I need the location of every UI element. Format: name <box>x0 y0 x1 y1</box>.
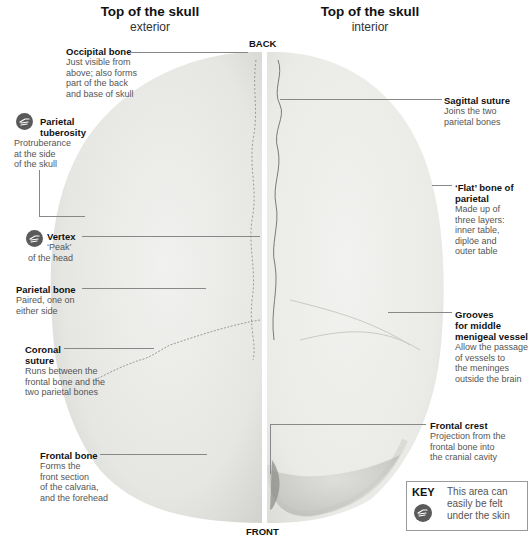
direction-front: FRONT <box>246 526 279 537</box>
skull-interior-half <box>267 52 444 523</box>
leader-occipital-bone <box>130 52 248 53</box>
label-body-line: Allow the passage <box>455 342 530 353</box>
label-title: Parietal <box>14 116 104 127</box>
label-body-line: Made up of <box>455 204 530 215</box>
leader-frontal-crest-vertical <box>270 424 271 474</box>
label-body-line: three layers: <box>455 215 530 226</box>
label-frontal-crest: Frontal crest Projection from the fronta… <box>430 420 530 463</box>
label-body-line: either side <box>16 306 106 317</box>
label-title: Parietal bone <box>16 284 106 295</box>
label-title: parietal <box>455 193 530 204</box>
right-panel-subtitle: interior <box>290 20 450 34</box>
label-body-line: Just visible from <box>66 57 176 68</box>
label-title: Frontal crest <box>430 420 530 431</box>
leader-parietal-bone <box>82 288 206 289</box>
label-body-line: above; also forms <box>66 68 176 79</box>
key-text-line: This area can <box>447 486 529 498</box>
label-title: Coronal <box>25 344 125 355</box>
label-coronal-suture: Coronal suture Runs between the frontal … <box>25 344 125 398</box>
left-panel-subtitle: exterior <box>70 20 230 34</box>
label-title: ‘Flat’ bone of <box>455 182 530 193</box>
label-title: suture <box>25 355 125 366</box>
label-body-line: outside the brain <box>455 374 530 385</box>
label-frontal-bone: Frontal bone Forms the front section of … <box>40 450 140 503</box>
leader-grooves-middle-meningeal <box>388 312 452 313</box>
label-body-line: Projection from the <box>430 431 530 442</box>
key-heading: KEY <box>412 487 435 498</box>
label-body-line: parietal bones <box>444 117 530 128</box>
label-body-line: part of the back <box>66 78 176 89</box>
leader-flat-bone-of-parietal <box>432 185 452 186</box>
label-title: for middle <box>455 320 530 331</box>
label-title: Grooves <box>455 309 530 320</box>
leader-frontal-crest-horizontal <box>270 424 426 425</box>
key-text-line: easily be felt <box>447 498 529 510</box>
label-body-line: inner table, <box>455 225 530 236</box>
leader-coronal-suture <box>64 348 154 349</box>
label-title: Sagittal suture <box>444 95 530 106</box>
label-body-line: and base of skull <box>66 89 176 100</box>
label-title: menigeal vessel <box>455 331 530 342</box>
label-occipital-bone: Occipital bone Just visible from above; … <box>66 46 176 99</box>
leader-frontal-bone <box>100 454 207 455</box>
right-panel-title: Top of the skull <box>290 4 450 19</box>
label-body-line: of the calvaria, <box>40 482 140 493</box>
label-body-line: ‘Peak’ <box>28 242 108 253</box>
key-description: This area can easily be felt under the s… <box>447 486 529 522</box>
label-body-line: the cranial cavity <box>430 452 530 463</box>
label-body-line: Protruberance <box>14 138 104 149</box>
label-body-line: at the side <box>14 149 104 160</box>
label-body-line: of the skull <box>14 159 104 170</box>
label-body-line: Paired, one on <box>16 295 106 306</box>
label-body-line: front section <box>40 472 140 483</box>
label-body-line: frontal bone into <box>430 442 530 453</box>
label-flat-bone-of-parietal: ‘Flat’ bone of parietal Made up of three… <box>455 182 530 257</box>
label-body-line: Runs between the <box>25 366 125 377</box>
leader-parietal-tuberosity-vertical <box>39 170 40 216</box>
label-body-line: and the forehead <box>40 493 140 504</box>
label-title: tuberosity <box>14 127 104 138</box>
label-body-line: the meninges <box>455 363 530 374</box>
leader-vertex <box>82 236 260 237</box>
palpable-hand-icon <box>414 504 432 522</box>
leader-sagittal-suture <box>280 99 442 100</box>
key-text-line: under the skin <box>447 510 529 522</box>
label-grooves-middle-meningeal: Grooves for middle menigeal vessel Allow… <box>455 309 530 384</box>
label-body-line: frontal bone and the <box>25 377 125 388</box>
label-parietal-tuberosity: Parietal tuberosity Protruberance at the… <box>14 116 104 170</box>
label-body-line: of vessels to <box>455 353 530 364</box>
label-body-line: two parietal bones <box>25 387 125 398</box>
direction-back: BACK <box>249 38 276 49</box>
left-panel-title: Top of the skull <box>70 4 230 19</box>
label-body-line: of the head <box>28 253 108 264</box>
label-body-line: outer table <box>455 246 530 257</box>
label-sagittal-suture: Sagittal suture Joins the two parietal b… <box>444 95 530 127</box>
leader-parietal-tuberosity-horizontal <box>39 216 85 217</box>
label-body-line: diplöe and <box>455 236 530 247</box>
key-legend: KEY This area can easily be felt under t… <box>406 481 528 531</box>
label-body-line: Joins the two <box>444 106 530 117</box>
label-body-line: Forms the <box>40 461 140 472</box>
label-title: Frontal bone <box>40 450 140 461</box>
